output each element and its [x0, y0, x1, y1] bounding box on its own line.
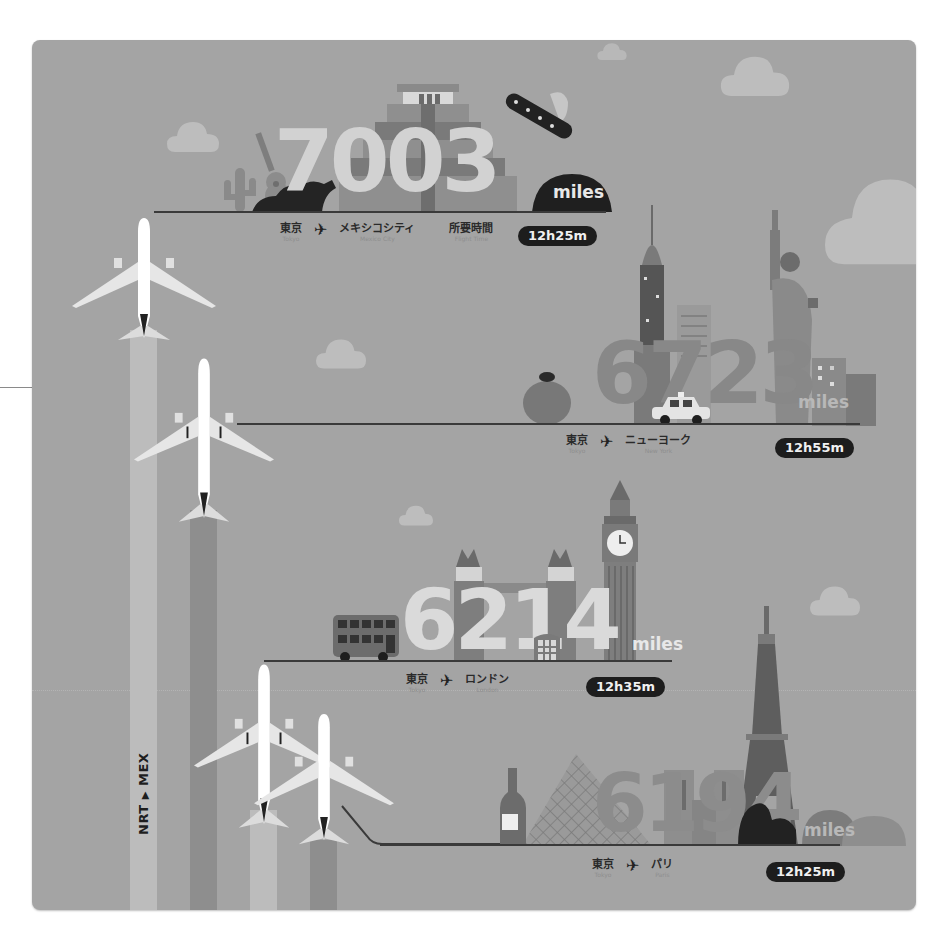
ground-line — [237, 423, 860, 425]
distance-unit: miles — [553, 182, 604, 202]
route-info: 東京 Tokyo ✈ ロンドン London — [406, 673, 509, 694]
origin-city: 東京 Tokyo — [280, 222, 302, 243]
left-guide-line — [0, 387, 32, 388]
plane-icon: ✈ — [314, 222, 327, 238]
flight-time-badge: 12h25m — [766, 862, 845, 882]
tree-icon — [738, 800, 798, 846]
ground-line — [380, 844, 840, 846]
origin-city: 東京 Tokyo — [566, 434, 588, 455]
cloud-icon — [720, 54, 790, 96]
phone-box-icon — [534, 632, 560, 662]
distance-value: 7003 — [274, 118, 497, 204]
infographic-frame: NRT ▶ MEX — [32, 40, 916, 910]
plane-icon: ✈ — [626, 858, 639, 874]
plane-icon: ✈ — [440, 673, 453, 689]
contrail-paris — [310, 840, 337, 910]
ground-line — [154, 211, 606, 213]
route-code-label: NRT ▶ MEX — [136, 753, 151, 835]
destination-city: ニューヨーク New York — [625, 434, 691, 455]
airplane-icon — [134, 358, 274, 530]
ground-line — [264, 660, 672, 662]
distance-unit: miles — [798, 392, 849, 412]
wine-bottle-icon — [498, 768, 528, 846]
airplane-icon — [254, 714, 394, 850]
apple-icon — [522, 365, 572, 425]
cloud-icon — [810, 584, 860, 616]
cloud-icon — [399, 504, 433, 526]
cloud-icon — [594, 42, 630, 60]
route-info: 東京 Tokyo ✈ ニューヨーク New York — [566, 434, 691, 455]
destination-city: メキシコシティ Mexico City — [339, 222, 415, 243]
sombrero-icon — [502, 88, 582, 148]
origin-city: 東京 Tokyo — [592, 858, 614, 879]
cloud-icon — [825, 175, 916, 265]
distance-unit: miles — [804, 820, 855, 840]
double-decker-bus-icon — [333, 615, 401, 663]
flight-time-badge: 12h25m — [518, 226, 597, 246]
taxi-icon — [650, 392, 714, 426]
cloud-icon — [167, 120, 219, 152]
flight-time-label: 所要時間 Flight Time — [449, 222, 493, 243]
airplane-icon — [72, 218, 216, 346]
distance-unit: miles — [632, 634, 683, 654]
destination-city: パリ Paris — [651, 858, 673, 879]
cloud-icon — [316, 337, 366, 369]
route-info: 東京 Tokyo ✈ メキシコシティ Mexico City 所要時間 Flig… — [280, 222, 493, 243]
origin-city: 東京 Tokyo — [406, 673, 428, 694]
plane-icon: ✈ — [600, 434, 613, 450]
distance-value: 6214 — [400, 578, 618, 662]
destination-city: ロンドン London — [465, 673, 509, 694]
flight-time-badge: 12h35m — [586, 677, 665, 697]
flight-time-badge: 12h55m — [775, 438, 854, 458]
route-info: 東京 Tokyo ✈ パリ Paris — [592, 858, 673, 879]
